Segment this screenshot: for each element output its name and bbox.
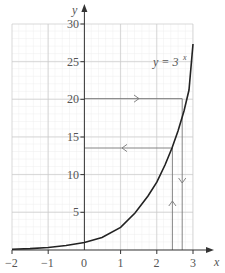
- svg-text:3: 3: [190, 256, 196, 270]
- svg-text:1: 1: [118, 256, 124, 270]
- svg-text:5: 5: [73, 205, 79, 219]
- y-axis-label: y: [71, 3, 78, 17]
- svg-text:10: 10: [67, 168, 79, 182]
- svg-text:0: 0: [81, 256, 87, 270]
- svg-text:15: 15: [67, 130, 79, 144]
- svg-text:x: x: [182, 53, 187, 62]
- svg-text:−1: −1: [41, 256, 54, 270]
- svg-text:−2: −2: [5, 256, 18, 270]
- svg-text:25: 25: [67, 55, 79, 69]
- svg-text:y = 3: y = 3: [152, 55, 178, 69]
- svg-text:2: 2: [154, 256, 160, 270]
- svg-text:20: 20: [67, 92, 79, 106]
- y-axis-arrow-icon: [81, 4, 87, 12]
- svg-text:30: 30: [67, 17, 79, 31]
- x-ticks: [12, 250, 193, 254]
- x-axis-label: x: [213, 255, 220, 269]
- x-tick-labels: −2 −1 0 1 2 3: [5, 256, 196, 270]
- exponential-graph: −2 −1 0 1 2 3 5 10 15 20 25 30 x y y = 3…: [0, 0, 225, 273]
- x-axis-arrow-icon: [206, 247, 214, 253]
